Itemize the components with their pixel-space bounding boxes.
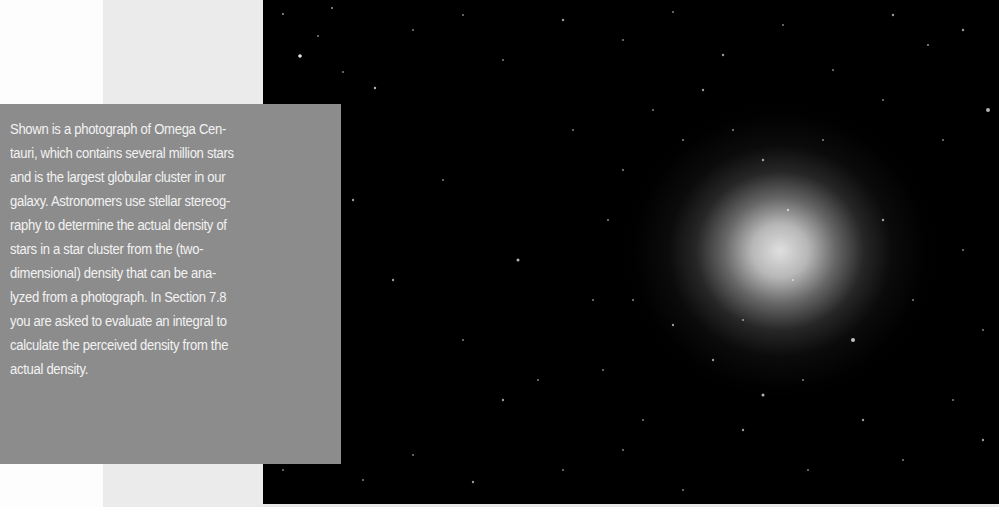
caption-line: and is the largest globular cluster in o… — [10, 165, 330, 189]
star-field — [263, 0, 999, 504]
caption-line: stars in a star cluster from the (two- — [10, 237, 330, 261]
caption-line: raphy to determine the actual density of — [10, 213, 330, 237]
caption-line: you are asked to evaluate an integral to — [10, 309, 330, 333]
figure-caption-box: Shown is a photograph of Omega Cen- taur… — [0, 104, 341, 464]
caption-line: galaxy. Astronomers use stellar stereog- — [10, 189, 330, 213]
caption-line: lyzed from a photograph. In Section 7.8 — [10, 285, 330, 309]
caption-line: Shown is a photograph of Omega Cen- — [10, 117, 330, 141]
omega-centauri-photo — [263, 0, 999, 504]
caption-line: actual density. — [10, 357, 330, 381]
caption-line: dimensional) density that can be ana- — [10, 261, 330, 285]
caption-line: calculate the perceived density from the — [10, 333, 330, 357]
caption-line: tauri, which contains several million st… — [10, 141, 330, 165]
figure-caption: Shown is a photograph of Omega Cen- taur… — [10, 117, 330, 381]
